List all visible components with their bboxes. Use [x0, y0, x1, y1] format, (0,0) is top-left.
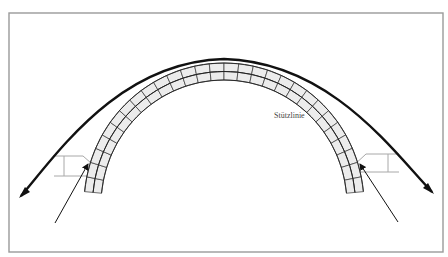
thrust-line-label: Stützlinie [274, 111, 305, 120]
voussoir [224, 72, 238, 81]
voussoir [209, 63, 224, 72]
voussoir [210, 72, 224, 81]
voussoir [224, 63, 239, 72]
arch-diagram: Stützlinie [0, 0, 448, 257]
